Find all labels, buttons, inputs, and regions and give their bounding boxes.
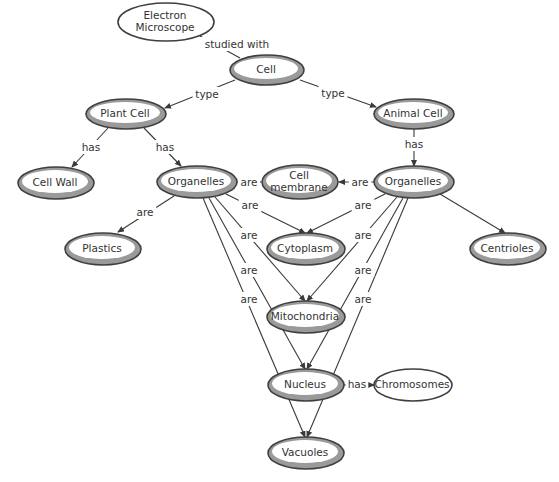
- node-plastics[interactable]: Plastics: [65, 233, 141, 265]
- node-label: Chromosomes: [374, 378, 449, 390]
- edge-label: are: [355, 229, 372, 241]
- node-nucleus[interactable]: Nucleus: [268, 369, 344, 401]
- node-label: Cell: [289, 169, 309, 181]
- edge-label: are: [241, 293, 258, 305]
- edge-organelles-animal-to-nucleus: [307, 198, 403, 369]
- edge-label: are: [355, 199, 372, 211]
- node-cell-membrane[interactable]: Cellmembrane: [262, 165, 338, 199]
- node-label: membrane: [270, 181, 327, 193]
- node-label: Mitochondria: [271, 310, 339, 322]
- node-label: Organelles: [168, 175, 224, 187]
- node-organelles-animal[interactable]: Organelles: [374, 166, 454, 198]
- node-label: Vacuoles: [282, 446, 329, 458]
- node-cell-wall[interactable]: Cell Wall: [18, 167, 94, 199]
- edge-label: has: [405, 138, 424, 150]
- nodes-layer: ElectronMicroscopeCellPlant CellAnimal C…: [18, 3, 546, 469]
- edge-label: type: [321, 87, 344, 99]
- node-electron-microscope[interactable]: ElectronMicroscope: [118, 3, 214, 41]
- edge-label: studied with: [205, 38, 270, 50]
- node-label: Cytoplasm: [277, 242, 333, 254]
- node-label: Animal Cell: [383, 107, 442, 119]
- node-centrioles[interactable]: Centrioles: [470, 233, 546, 265]
- edge-labels-layer: studied withtypetypehashasarearehasarear…: [80, 37, 426, 391]
- node-chromosomes[interactable]: Chromosomes: [374, 369, 452, 401]
- node-cytoplasm[interactable]: Cytoplasm: [267, 233, 345, 265]
- edge-label: are: [242, 199, 259, 211]
- node-label: Centrioles: [480, 242, 533, 254]
- edge-organelles-animal-to-centrioles: [440, 194, 505, 233]
- edge-label: are: [352, 176, 369, 188]
- concept-map: studied withtypetypehashasarearehasarear…: [0, 0, 559, 482]
- node-mitochondria[interactable]: Mitochondria: [267, 301, 345, 333]
- node-animal-cell[interactable]: Animal Cell: [374, 99, 454, 129]
- edge-label: type: [195, 88, 218, 100]
- edge-label: has: [156, 141, 175, 153]
- node-vacuoles[interactable]: Vacuoles: [268, 437, 344, 469]
- edge-label: are: [241, 229, 258, 241]
- node-label: Cell Wall: [33, 176, 78, 188]
- edge-label: are: [241, 264, 258, 276]
- edge-label: are: [355, 264, 372, 276]
- edge-label: are: [355, 293, 372, 305]
- edge-organelles-plant-to-nucleus: [209, 198, 305, 369]
- node-cell[interactable]: Cell: [230, 55, 304, 85]
- node-label: Plant Cell: [100, 107, 149, 119]
- edge-organelles-plant-to-cytoplasm: [226, 194, 305, 233]
- edge-label: are: [241, 176, 258, 188]
- node-label: Electron: [143, 9, 186, 21]
- node-label: Microscope: [135, 21, 194, 33]
- edge-label: has: [348, 378, 367, 390]
- node-label: Cell: [256, 63, 276, 75]
- node-plant-cell[interactable]: Plant Cell: [86, 99, 166, 129]
- edge-label: are: [137, 206, 154, 218]
- node-label: Organelles: [385, 175, 441, 187]
- node-label: Plastics: [82, 242, 121, 254]
- edge-label: has: [82, 141, 101, 153]
- node-organelles-plant[interactable]: Organelles: [157, 166, 237, 198]
- node-label: Nucleus: [284, 378, 326, 390]
